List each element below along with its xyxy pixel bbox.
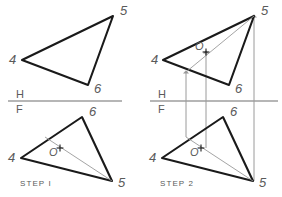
vertex-label-6: 6 bbox=[235, 81, 243, 96]
vertex-label-5: 5 bbox=[259, 175, 267, 190]
vertex-label-6: 6 bbox=[89, 104, 97, 119]
fold-line-label-f: F bbox=[16, 103, 23, 115]
point-o-label: O bbox=[190, 146, 199, 158]
vertex-label-5: 5 bbox=[120, 3, 128, 18]
canvas-background bbox=[0, 0, 282, 197]
fold-line-label-f: F bbox=[158, 103, 165, 115]
vertex-label-4: 4 bbox=[8, 150, 15, 165]
vertex-label-6: 6 bbox=[94, 81, 102, 96]
vertex-label-4: 4 bbox=[9, 52, 16, 67]
step-label-step1: STEP I bbox=[20, 179, 52, 188]
vertex-label-4: 4 bbox=[151, 52, 158, 67]
point-o-label: O bbox=[49, 146, 58, 158]
vertex-label-6: 6 bbox=[230, 104, 238, 119]
step-label-step2: STEP 2 bbox=[160, 179, 194, 188]
fold-line-label-h: H bbox=[16, 88, 24, 100]
drawing-page: HF456465OSTEP IHF456O465OSTEP 2 bbox=[0, 0, 282, 197]
vertex-label-5: 5 bbox=[261, 3, 269, 18]
vertex-label-5: 5 bbox=[118, 175, 126, 190]
fold-line-label-h: H bbox=[158, 88, 166, 100]
vertex-label-4: 4 bbox=[149, 150, 156, 165]
technical-drawing-canvas: HF456465OSTEP IHF456O465OSTEP 2 bbox=[0, 0, 282, 197]
point-o-label: O bbox=[195, 40, 204, 52]
